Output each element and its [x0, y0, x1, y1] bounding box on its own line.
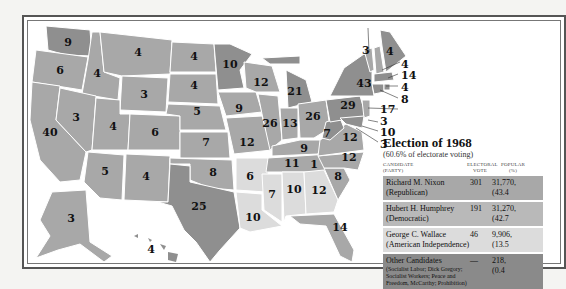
- legend-row-other: Other Candidates(Socialist Labor; Dick G…: [383, 254, 543, 289]
- label-oh: 26: [305, 110, 320, 123]
- state-ct: [372, 84, 384, 94]
- candidate-party: (American Independence): [386, 240, 470, 250]
- label-wi: 12: [253, 76, 268, 89]
- popular-pct: (43.4: [492, 188, 532, 198]
- state-ak: [36, 190, 112, 262]
- label-ut: 4: [109, 120, 117, 133]
- label-la: 10: [245, 211, 260, 224]
- label-vt: 3: [362, 44, 370, 57]
- label-sd: 4: [190, 79, 198, 92]
- legend-title: Election of 1968: [383, 135, 543, 151]
- popular-vote: 9,906,: [492, 230, 532, 240]
- label-pa: 29: [340, 99, 355, 112]
- candidate-party: (Socialist Labor; Dick Gregory; Socialis…: [386, 266, 470, 287]
- electoral-vote: 301: [470, 178, 492, 198]
- label-ca: 40: [42, 126, 57, 139]
- state-nj: [362, 100, 370, 118]
- popular-vote: 218,: [492, 256, 532, 266]
- label-ga: 12: [311, 184, 326, 197]
- label-mo: 12: [239, 136, 254, 149]
- electoral-vote: 46: [470, 230, 492, 250]
- label-fl: 14: [332, 221, 347, 234]
- state-ri: [384, 84, 390, 90]
- label-in: 13: [282, 117, 297, 130]
- label-ky: 9: [300, 142, 308, 155]
- label-az: 5: [101, 165, 109, 178]
- legend-header: CANDIDATE (PARTY) ELECTORAL VOTE POPULAR…: [383, 162, 543, 174]
- label-nd: 4: [190, 50, 198, 63]
- label-tx: 25: [191, 200, 206, 213]
- candidate-party: (Democratic): [386, 214, 470, 224]
- label-or: 6: [56, 64, 64, 77]
- header-party: (PARTY): [383, 168, 467, 174]
- label-wa: 9: [64, 36, 72, 49]
- label-va: 12: [342, 131, 357, 144]
- candidate-name: Richard M. Nixon: [386, 178, 470, 188]
- label-nc-split: 1: [310, 158, 318, 171]
- legend-row-wallace: George C. Wallace(American Independence)…: [383, 228, 543, 252]
- label-il: 26: [262, 117, 277, 130]
- label-mt: 4: [134, 46, 142, 59]
- candidate-name: Hubert H. Humphrey: [386, 204, 470, 214]
- legend-row-nixon: Richard M. Nixon(Republican) 301 31,770,…: [383, 176, 543, 200]
- label-ny: 43: [356, 77, 371, 90]
- candidate-name: George C. Wallace: [386, 230, 470, 240]
- state-hi: [134, 234, 178, 262]
- label-ct: 8: [401, 93, 409, 106]
- label-mi: 21: [287, 85, 302, 98]
- label-ar: 6: [246, 170, 254, 183]
- label-ak: 3: [67, 212, 75, 225]
- electoral-vote: —: [470, 256, 492, 287]
- label-nm: 4: [142, 170, 150, 183]
- electoral-vote: 191: [470, 204, 492, 224]
- popular-pct: (13.5: [492, 240, 532, 250]
- popular-vote: 31,770,: [492, 178, 532, 188]
- header-pct: (%): [493, 168, 533, 174]
- label-ms: 7: [268, 188, 276, 201]
- label-wv: 7: [323, 127, 331, 140]
- legend-subtitle: (60.6% of electorate voting): [383, 150, 543, 159]
- label-tn: 11: [284, 157, 299, 170]
- candidate-name: Other Candidates: [386, 256, 470, 266]
- state-al: [282, 172, 306, 222]
- candidate-party: (Republican): [386, 188, 470, 198]
- label-nv: 3: [72, 111, 80, 124]
- popular-vote: 31,270,: [492, 204, 532, 214]
- legend-row-humphrey: Hubert H. Humphrey(Democratic) 191 31,27…: [383, 202, 543, 226]
- label-co: 6: [151, 126, 159, 139]
- label-wy: 3: [140, 88, 148, 101]
- label-nc: 12: [341, 151, 356, 164]
- label-hi: 4: [147, 243, 155, 256]
- label-id: 4: [93, 67, 101, 80]
- label-sc: 8: [334, 170, 342, 183]
- legend-panel: Election of 1968 (60.6% of electorate vo…: [383, 135, 543, 289]
- label-al: 10: [286, 183, 301, 196]
- label-mn: 10: [222, 58, 237, 71]
- popular-pct: (0.4: [492, 266, 532, 276]
- popular-pct: (42.7: [492, 214, 532, 224]
- label-ok: 8: [209, 166, 217, 179]
- label-me: 4: [386, 45, 394, 58]
- label-ne: 5: [193, 105, 201, 118]
- header-vote: VOTE: [467, 168, 493, 174]
- label-ia: 9: [235, 102, 243, 115]
- label-ks: 7: [202, 136, 210, 149]
